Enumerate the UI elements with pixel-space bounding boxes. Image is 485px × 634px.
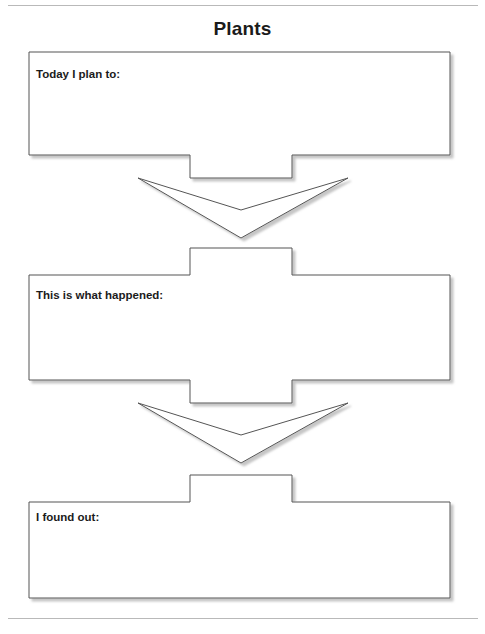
flow-box-found (29, 475, 450, 598)
page-bottom-rule (8, 618, 478, 619)
flowchart-diagram (0, 0, 485, 634)
flow-arrow-1 (138, 178, 348, 238)
flow-box-happened-label: This is what happened: (36, 289, 163, 301)
flow-box-found-label: I found out: (36, 511, 99, 523)
flow-box-happened (29, 248, 450, 403)
worksheet-page: Plants (0, 0, 485, 634)
flow-arrow-2 (138, 403, 348, 463)
flow-box-plan-label: Today I plan to: (36, 68, 120, 80)
